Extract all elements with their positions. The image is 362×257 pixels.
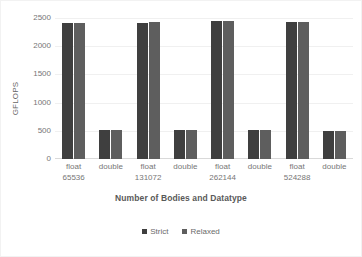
x-axis-tick-datatype: float bbox=[141, 162, 156, 171]
chart-container: GFLOPS 05001000150020002500 float65536do… bbox=[0, 0, 362, 257]
x-axis-tick-datatype: double bbox=[173, 162, 197, 171]
x-axis-tick: float262144 bbox=[204, 161, 241, 191]
bar-group bbox=[241, 18, 278, 159]
x-axis-tick: double bbox=[316, 161, 353, 191]
bars-layer bbox=[55, 18, 353, 159]
bar-relaxed[interactable] bbox=[260, 130, 271, 159]
chart-legend: StrictRelaxed bbox=[1, 227, 361, 236]
x-axis-tick-bodies: 65536 bbox=[55, 172, 92, 183]
bar-strict[interactable] bbox=[323, 131, 334, 159]
legend-swatch-icon bbox=[142, 229, 147, 234]
bar-relaxed[interactable] bbox=[223, 21, 234, 159]
y-axis-title: GFLOPS bbox=[9, 63, 23, 133]
legend-item[interactable]: Strict bbox=[142, 227, 168, 236]
x-axis-tick-bodies: 262144 bbox=[204, 172, 241, 183]
bar-strict[interactable] bbox=[99, 130, 110, 159]
legend-item[interactable]: Relaxed bbox=[182, 227, 219, 236]
y-axis-tick: 0 bbox=[23, 155, 51, 163]
bar-group bbox=[92, 18, 129, 159]
x-axis-tick-bodies bbox=[92, 172, 129, 183]
bar-group bbox=[316, 18, 353, 159]
bar-strict[interactable] bbox=[174, 130, 185, 159]
bar-strict[interactable] bbox=[62, 23, 73, 159]
bar-strict[interactable] bbox=[137, 23, 148, 159]
bar-group bbox=[55, 18, 92, 159]
y-axis-tick: 2000 bbox=[23, 42, 51, 50]
x-axis-title: Number of Bodies and Datatype bbox=[1, 193, 361, 203]
bar-relaxed[interactable] bbox=[111, 130, 122, 159]
plot-area bbox=[55, 18, 353, 159]
x-axis-tick-bodies: 524288 bbox=[279, 172, 316, 183]
y-axis-tick-labels: 05001000150020002500 bbox=[23, 18, 51, 159]
bar-strict[interactable] bbox=[211, 21, 222, 159]
bar-relaxed[interactable] bbox=[335, 131, 346, 159]
x-axis-tick: float65536 bbox=[55, 161, 92, 191]
y-axis-tick: 1000 bbox=[23, 99, 51, 107]
x-axis-tick-datatype: float bbox=[215, 162, 230, 171]
y-axis-title-label: GFLOPS bbox=[12, 81, 21, 115]
x-axis-tick: float131072 bbox=[130, 161, 167, 191]
x-axis-tick-datatype: double bbox=[322, 162, 346, 171]
x-axis-tick-labels: float65536double float131072double float… bbox=[55, 161, 353, 191]
x-axis-tick: float524288 bbox=[279, 161, 316, 191]
bar-group bbox=[167, 18, 204, 159]
x-axis-tick-datatype: double bbox=[248, 162, 272, 171]
y-axis-tick: 1500 bbox=[23, 70, 51, 78]
legend-label: Relaxed bbox=[190, 227, 219, 236]
bar-group bbox=[204, 18, 241, 159]
bar-strict[interactable] bbox=[286, 22, 297, 159]
bar-strict[interactable] bbox=[248, 130, 259, 159]
y-axis-tick: 2500 bbox=[23, 14, 51, 22]
bar-group bbox=[130, 18, 167, 159]
x-axis-tick: double bbox=[241, 161, 278, 191]
x-axis-tick-datatype: float bbox=[290, 162, 305, 171]
bar-relaxed[interactable] bbox=[74, 23, 85, 159]
bar-relaxed[interactable] bbox=[298, 22, 309, 159]
x-axis-tick-datatype: double bbox=[99, 162, 123, 171]
bar-relaxed[interactable] bbox=[149, 22, 160, 159]
x-axis-tick-bodies: 131072 bbox=[130, 172, 167, 183]
legend-label: Strict bbox=[150, 227, 168, 236]
y-axis-tick: 500 bbox=[23, 127, 51, 135]
x-axis-tick-bodies bbox=[241, 172, 278, 183]
bar-group bbox=[279, 18, 316, 159]
x-axis-tick-bodies bbox=[167, 172, 204, 183]
x-axis-tick: double bbox=[92, 161, 129, 191]
x-axis-tick-bodies bbox=[316, 172, 353, 183]
bar-relaxed[interactable] bbox=[186, 130, 197, 159]
x-axis-tick: double bbox=[167, 161, 204, 191]
x-axis-tick-datatype: float bbox=[66, 162, 81, 171]
legend-swatch-icon bbox=[182, 229, 187, 234]
